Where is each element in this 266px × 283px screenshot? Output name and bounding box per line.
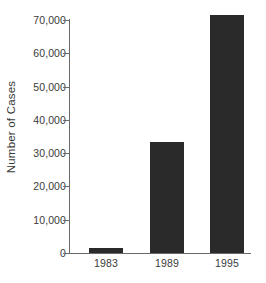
- x-axis-tick-label: 1995: [202, 258, 252, 269]
- y-axis-tick-mark: [63, 120, 69, 121]
- y-axis-tick-mark: [63, 153, 69, 154]
- y-axis-tick-label: 60,000: [2, 48, 66, 59]
- y-axis-tick-mark: [63, 53, 69, 54]
- y-axis-tick-label: 70,000: [2, 15, 66, 26]
- x-axis-tick-labels: 198319891995: [70, 258, 251, 276]
- bar-1995: [210, 15, 244, 253]
- y-axis-tick-label: 20,000: [2, 181, 66, 192]
- y-axis-tick-label: 10,000: [2, 214, 66, 225]
- x-axis-line: [69, 253, 251, 254]
- y-axis-tick-label: 50,000: [2, 81, 66, 92]
- y-axis-tick-label: 40,000: [2, 115, 66, 126]
- y-axis-tick-mark: [63, 186, 69, 187]
- y-axis-tick-mark: [63, 253, 69, 254]
- x-axis-tick-label: 1983: [81, 258, 131, 269]
- bar-1983: [89, 248, 123, 253]
- x-axis-tick-label: 1989: [142, 258, 192, 269]
- y-axis-tick-mark: [63, 87, 69, 88]
- bar-1989: [150, 142, 184, 253]
- y-axis-tick-label: 30,000: [2, 148, 66, 159]
- y-axis-tick-mark: [63, 20, 69, 21]
- plot-area: [70, 0, 251, 253]
- y-axis-tick-mark: [63, 220, 69, 221]
- bar-chart-figure: Number of Cases 010,00020,00030,00040,00…: [0, 0, 266, 283]
- y-axis-tick-label: 0: [2, 248, 66, 259]
- y-axis-tick-labels: 010,00020,00030,00040,00050,00060,00070,…: [0, 0, 66, 283]
